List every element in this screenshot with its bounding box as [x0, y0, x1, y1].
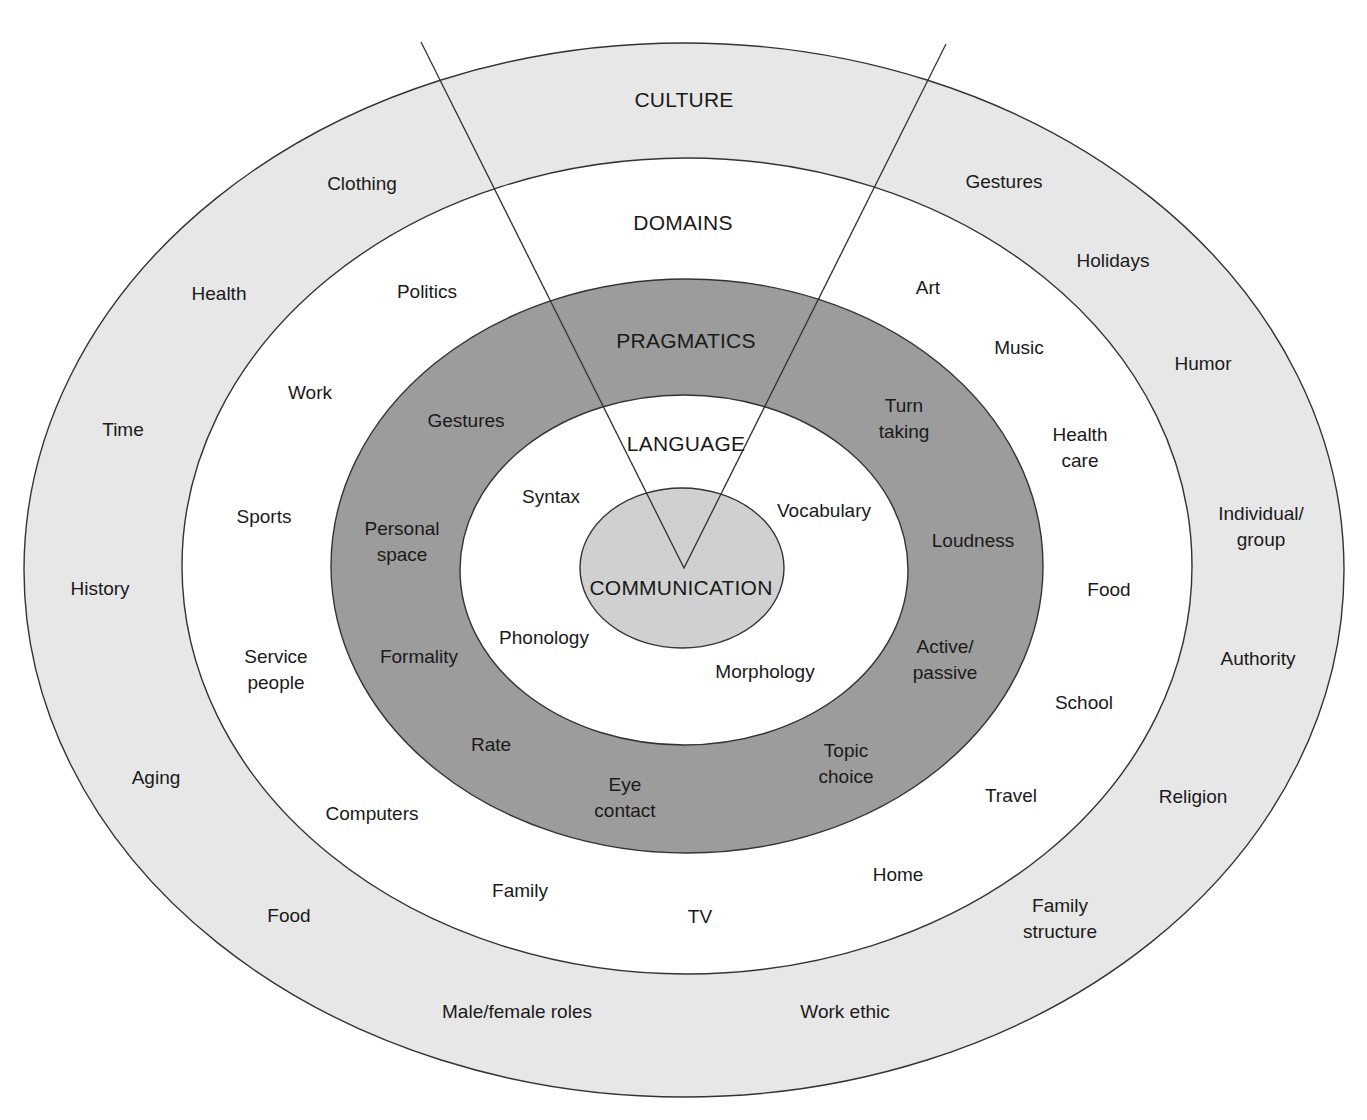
- culture-item: Family structure: [1023, 893, 1097, 945]
- pragmatics-item: Topic choice: [819, 738, 874, 790]
- pragmatics-item: Personal space: [365, 516, 440, 568]
- domains-item: Service people: [244, 644, 307, 696]
- language-item: Vocabulary: [777, 498, 871, 524]
- culture-item: Time: [102, 417, 144, 443]
- domains-item: School: [1055, 690, 1113, 716]
- pragmatics-item: Loudness: [932, 528, 1014, 554]
- culture-item: Holidays: [1077, 248, 1150, 274]
- pragmatics-heading: PRAGMATICS: [616, 328, 755, 354]
- language-item: Syntax: [522, 484, 580, 510]
- domains-item: Art: [916, 275, 940, 301]
- pragmatics-item: Turn taking: [879, 393, 930, 445]
- domains-item: Music: [994, 335, 1044, 361]
- domains-item: Food: [1087, 577, 1130, 603]
- domains-item: Home: [873, 862, 924, 888]
- concentric-diagram: [0, 0, 1367, 1120]
- culture-item: Health: [192, 281, 247, 307]
- culture-item: Humor: [1174, 351, 1231, 377]
- culture-item: Individual/ group: [1218, 501, 1304, 553]
- domains-item: Family: [492, 878, 548, 904]
- culture-item: History: [70, 576, 129, 602]
- language-heading: LANGUAGE: [627, 431, 745, 457]
- domains-item: Work: [288, 380, 332, 406]
- culture-item: Religion: [1159, 784, 1228, 810]
- culture-item: Food: [267, 903, 310, 929]
- pragmatics-item: Formality: [380, 644, 458, 670]
- domains-item: Computers: [326, 801, 419, 827]
- domains-item: Politics: [397, 279, 457, 305]
- pragmatics-item: Eye contact: [594, 772, 655, 824]
- pragmatics-item: Rate: [471, 732, 511, 758]
- communication-heading: COMMUNICATION: [589, 575, 772, 601]
- language-item: Phonology: [499, 625, 589, 651]
- domains-item: Travel: [985, 783, 1037, 809]
- communication-core: [580, 488, 784, 648]
- culture-item: Aging: [132, 765, 181, 791]
- domains-item: TV: [688, 904, 712, 930]
- domains-item: Sports: [237, 504, 292, 530]
- culture-item: Authority: [1221, 646, 1296, 672]
- pragmatics-item: Active/ passive: [913, 634, 977, 686]
- culture-item: Clothing: [327, 171, 397, 197]
- language-item: Morphology: [715, 659, 814, 685]
- culture-item: Work ethic: [800, 999, 889, 1025]
- culture-heading: CULTURE: [634, 87, 733, 113]
- domains-item: Health care: [1053, 422, 1108, 474]
- culture-item: Gestures: [965, 169, 1042, 195]
- domains-heading: DOMAINS: [633, 210, 732, 236]
- pragmatics-item: Gestures: [427, 408, 504, 434]
- culture-item: Male/female roles: [442, 999, 592, 1025]
